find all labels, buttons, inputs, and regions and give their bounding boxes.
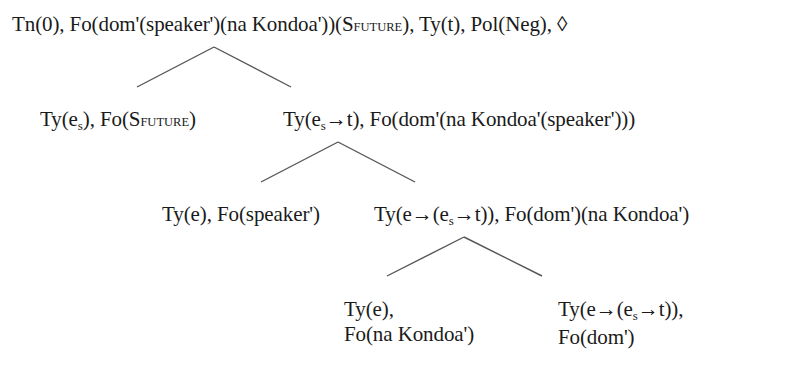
l2r-subscript: s xyxy=(449,213,454,228)
l3r-line2: Fo(dom') xyxy=(558,325,683,349)
root-future-label: FUTURE xyxy=(354,20,403,34)
l2r-text-1: Ty(e→(e xyxy=(374,202,449,226)
l3r-text-2: →t)), xyxy=(638,297,684,321)
l1l-text-2: ), Fo(S xyxy=(83,107,141,131)
root-text-post: ), Ty(t), Pol(Neg), ◊ xyxy=(402,12,567,36)
l3r-line1: Ty(e→(es→t)), xyxy=(558,297,683,324)
level1-right-node: Ty(es→t), Fo(dom'(na Kondoa'(speaker'))) xyxy=(283,107,635,134)
l1l-text-3: ) xyxy=(189,107,196,131)
l1l-text-1: Ty(e xyxy=(40,107,78,131)
l3l-line2: Fo(na Kondoa') xyxy=(344,322,474,346)
l1r-subscript: s xyxy=(321,118,326,133)
l1l-subscript: s xyxy=(78,118,83,133)
l3r-text-1: Ty(e→(e xyxy=(558,297,633,321)
level2-right-node: Ty(e→(es→t)), Fo(dom')(na Kondoa') xyxy=(374,202,689,229)
l1r-text-1: Ty(e xyxy=(283,107,321,131)
l1l-future-label: FUTURE xyxy=(140,115,189,129)
level3-right-node: Ty(e→(es→t)), Fo(dom') xyxy=(558,297,683,349)
edge-root-right xyxy=(214,47,291,87)
level2-left-node: Ty(e), Fo(speaker') xyxy=(162,202,320,226)
l3r-subscript: s xyxy=(633,308,638,323)
level1-left-node: Ty(es), Fo(SFUTURE) xyxy=(40,107,196,134)
edge-l2-left xyxy=(387,237,464,276)
edge-root-left xyxy=(137,47,214,87)
edge-l1-left xyxy=(261,142,338,182)
edge-l1-right xyxy=(338,142,415,182)
l2l-text: Ty(e), Fo(speaker') xyxy=(162,202,320,226)
l2r-text-2: →t)), Fo(dom')(na Kondoa') xyxy=(454,202,689,226)
edge-l2-right xyxy=(464,237,542,276)
root-node: Tn(0), Fo(dom'(speaker')(na Kondoa'))(SF… xyxy=(12,12,567,39)
root-text-pre: Tn(0), Fo(dom'(speaker')(na Kondoa'))(S xyxy=(12,12,354,36)
l3l-line1: Ty(e), xyxy=(344,297,474,321)
level3-left-node: Ty(e), Fo(na Kondoa') xyxy=(344,297,474,346)
l1r-text-2: →t), Fo(dom'(na Kondoa'(speaker'))) xyxy=(326,107,635,131)
